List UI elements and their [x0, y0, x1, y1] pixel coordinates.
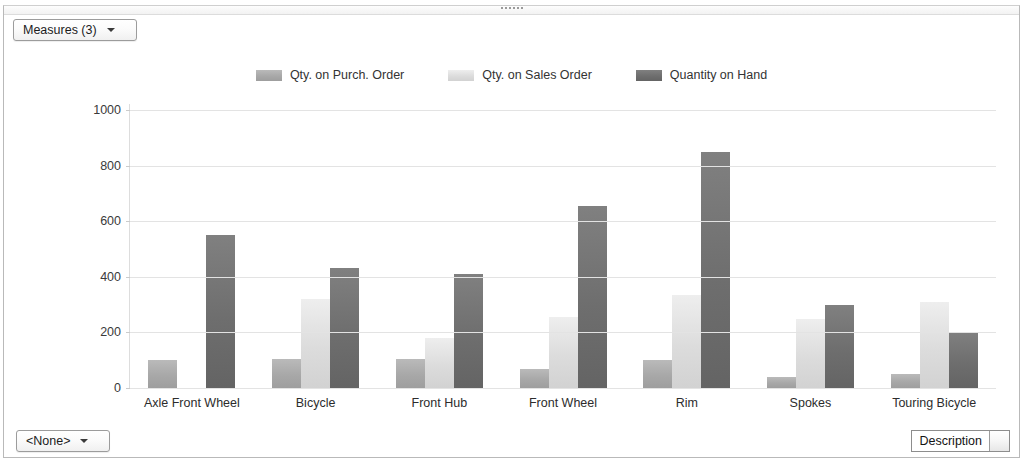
bar[interactable]	[949, 332, 978, 388]
bar-groups: Axle Front WheelBicycleFront HubFront Wh…	[130, 110, 996, 388]
bar[interactable]	[578, 206, 607, 388]
y-axis-tick-label: 1000	[93, 103, 121, 117]
bar-group: Axle Front Wheel	[130, 110, 254, 388]
y-axis-tick-label: 0	[114, 381, 121, 395]
y-axis-tick-label: 200	[100, 325, 121, 339]
legend-swatch	[448, 70, 474, 81]
none-dropdown[interactable]: <None>	[16, 430, 110, 452]
legend-label: Quantity on Hand	[670, 68, 767, 82]
none-dropdown-label: <None>	[17, 431, 80, 451]
legend-swatch	[256, 70, 282, 81]
bar[interactable]	[425, 338, 454, 388]
bar[interactable]	[301, 299, 330, 388]
chart-legend: Qty. on Purch. OrderQty. on Sales OrderQ…	[4, 68, 1019, 82]
bar[interactable]	[520, 369, 549, 388]
bar[interactable]	[454, 274, 483, 388]
bar[interactable]	[767, 377, 796, 388]
bar[interactable]	[148, 360, 177, 388]
legend-item[interactable]: Qty. on Purch. Order	[256, 68, 404, 82]
x-axis-category-label: Bicycle	[296, 396, 336, 410]
bar[interactable]	[396, 359, 425, 388]
x-axis-category-label: Spokes	[790, 396, 832, 410]
legend-swatch	[636, 70, 662, 81]
bar[interactable]	[891, 374, 920, 388]
gridline	[130, 166, 996, 167]
y-axis-tick-label: 600	[100, 214, 121, 228]
x-axis-category-label: Front Hub	[412, 396, 468, 410]
bar[interactable]	[272, 359, 301, 388]
description-dropdown[interactable]: Description	[911, 430, 1010, 452]
description-dropdown-button[interactable]	[989, 431, 1009, 451]
bar[interactable]	[672, 295, 701, 388]
bar-group: Rim	[625, 110, 749, 388]
bar-group: Touring Bicycle	[872, 110, 996, 388]
bar[interactable]	[701, 152, 730, 388]
x-axis-category-label: Touring Bicycle	[892, 396, 976, 410]
bar[interactable]	[920, 302, 949, 388]
gridline	[130, 110, 996, 111]
y-axis-tick	[126, 166, 130, 167]
y-axis-tick	[126, 221, 130, 222]
resize-grip-icon[interactable]	[501, 7, 523, 9]
chart-window: Measures (3) Qty. on Purch. OrderQty. on…	[3, 5, 1020, 458]
bar-group: Bicycle	[254, 110, 378, 388]
gridline	[130, 221, 996, 222]
x-axis-category-label: Axle Front Wheel	[144, 396, 240, 410]
y-axis-tick	[126, 388, 130, 389]
bar-group: Front Wheel	[501, 110, 625, 388]
x-axis-category-label: Front Wheel	[529, 396, 597, 410]
x-axis-category-label: Rim	[676, 396, 698, 410]
bar-group: Front Hub	[377, 110, 501, 388]
gridline	[130, 332, 996, 333]
gridline	[130, 277, 996, 278]
window-grip-bar[interactable]	[4, 6, 1019, 15]
bar[interactable]	[330, 268, 359, 388]
plot-area: Axle Front WheelBicycleFront HubFront Wh…	[130, 110, 996, 388]
y-axis-tick-label: 400	[100, 270, 121, 284]
description-dropdown-label: Description	[912, 431, 989, 451]
bar[interactable]	[796, 319, 825, 389]
bar[interactable]	[643, 360, 672, 388]
y-axis-tick	[126, 110, 130, 111]
legend-label: Qty. on Sales Order	[482, 68, 592, 82]
legend-label: Qty. on Purch. Order	[290, 68, 404, 82]
bar[interactable]	[825, 305, 854, 388]
bar-group: Spokes	[749, 110, 873, 388]
legend-item[interactable]: Quantity on Hand	[636, 68, 767, 82]
gridline	[130, 388, 996, 389]
bar-chart: Qty. on Purch. OrderQty. on Sales OrderQ…	[4, 15, 1019, 420]
y-axis-tick-label: 800	[100, 159, 121, 173]
gridlines-and-bars: Axle Front WheelBicycleFront HubFront Wh…	[130, 110, 996, 388]
y-axis-tick	[126, 332, 130, 333]
y-axis-tick	[126, 277, 130, 278]
chevron-down-icon	[80, 439, 88, 443]
bar[interactable]	[206, 235, 235, 388]
bar[interactable]	[549, 317, 578, 388]
legend-item[interactable]: Qty. on Sales Order	[448, 68, 592, 82]
